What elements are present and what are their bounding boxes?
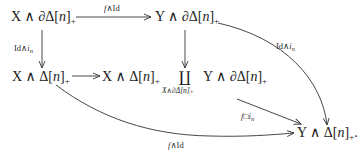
node-top-right: Y ∧ ∂Δ[n]+ (155, 10, 219, 24)
label-right-curve: Id∧in (276, 42, 295, 51)
node-text: ] (150, 69, 155, 84)
node-text: ] (60, 69, 65, 84)
node-pushout-right: Y ∧ ∂Δ[n]+ (203, 70, 267, 84)
node-subscript: + (71, 16, 76, 26)
label-sub: n (251, 115, 254, 122)
node-text: X ∧ ∂Δ[ (11, 9, 59, 24)
node-var: n (53, 69, 60, 84)
node-var: n (143, 69, 150, 84)
label-bottom-curve: f∧Id (168, 141, 184, 150)
node-pushout-left: X ∧ Δ[n]+ (102, 70, 160, 84)
node-text: ] (66, 9, 71, 24)
node-bottom-right: Y ∧ Δ[n]+. (297, 126, 358, 140)
node-var: n (338, 125, 345, 140)
coproduct-symbol: ∐ (179, 70, 191, 85)
node-subscript: + (155, 76, 160, 86)
node-trailing-period: . (354, 125, 358, 140)
node-middle-left: X ∧ Δ[n]+ (12, 70, 70, 84)
node-text: Y ∧ ∂Δ[ (155, 9, 202, 24)
label-top-arrow: f∧Id (104, 4, 120, 13)
label-sub: n (30, 47, 33, 54)
node-subscript: + (349, 132, 354, 142)
node-var: n (59, 9, 66, 24)
label-rest: ∧Id (106, 3, 119, 13)
node-subscript: + (214, 16, 219, 26)
label-rest: ∧Id (170, 140, 183, 150)
node-text: Y ∧ ∂Δ[ (203, 69, 250, 84)
node-text: X ∧ Δ[ (102, 69, 143, 84)
node-top-left: X ∧ ∂Δ[n]+ (11, 10, 76, 24)
node-text: Y ∧ Δ[ (297, 125, 338, 140)
label-pre: Id∧ (14, 43, 27, 53)
label-pre: Id∧ (276, 41, 289, 51)
label-sub: n (292, 45, 295, 52)
label-left-vertical: Id∧in (14, 44, 33, 53)
coproduct-subscript: X∧∂Δ[n]₊ (162, 87, 194, 95)
label-pushout-map: f□in (241, 112, 254, 121)
node-text: X ∧ Δ[ (12, 69, 53, 84)
node-subscript: + (65, 76, 70, 86)
node-subscript: + (262, 76, 267, 86)
